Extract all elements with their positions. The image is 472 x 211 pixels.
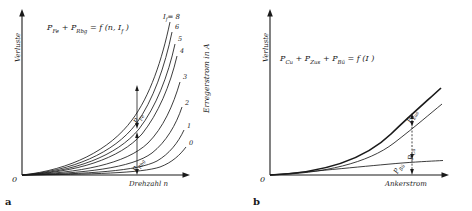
chart-panel-a: Verluste PFe + PRbg = f (n, If ) If= 8 6… bbox=[0, 0, 236, 211]
annotation-pcu-sub: Cu bbox=[411, 149, 416, 156]
curve-if-6 bbox=[22, 32, 172, 175]
curve-label-2: 2 bbox=[185, 100, 189, 107]
legend-title-erregerstrom: Erregerstrom in A bbox=[203, 44, 211, 113]
curve-label-3: 3 bbox=[183, 74, 187, 81]
formula-a-eq: = f (n, I bbox=[90, 23, 121, 32]
curve-label-5: 5 bbox=[178, 36, 182, 43]
panel-caption-b: b bbox=[253, 197, 260, 207]
x-axis-label-a: Drehzahl n bbox=[129, 181, 168, 188]
formula-b-plus1: + bbox=[296, 54, 303, 63]
formula-b-plus2: + bbox=[323, 54, 330, 63]
curve-if-4 bbox=[22, 56, 177, 175]
formula-a-eq-end: ) bbox=[123, 23, 129, 32]
origin-label-b: 0 bbox=[260, 176, 265, 184]
origin-label-a: 0 bbox=[12, 176, 17, 184]
formula-a-plus: + bbox=[62, 23, 69, 32]
formula-b-p2-sub: Zus bbox=[310, 59, 320, 65]
formula-b-p3-sub: Bü bbox=[338, 59, 346, 65]
formula-b: PCu + PZus + PBü = f (I ) bbox=[280, 55, 374, 65]
curve-label-1: 1 bbox=[187, 123, 191, 130]
y-axis-label-a: Verluste bbox=[15, 33, 22, 62]
chart-panel-b: Verluste PCu + PZus + PBü = f (I ) PZus … bbox=[236, 0, 472, 211]
curve-label-6: 6 bbox=[175, 24, 179, 31]
x-axis-label-b: Ankerstrom bbox=[385, 181, 427, 188]
series-label-eq: = 8 bbox=[168, 13, 181, 21]
curve-label-0: 0 bbox=[189, 140, 193, 147]
y-axis-label-b: Verluste bbox=[263, 33, 270, 62]
annotation-label-pcu: PCu bbox=[408, 149, 417, 160]
curve-if-5 bbox=[22, 44, 175, 175]
formula-a-p2-sub: Rbg bbox=[76, 28, 87, 34]
loss-characteristics-figure: Verluste PFe + PRbg = f (n, If ) If= 8 6… bbox=[0, 0, 472, 211]
panel-b-plot bbox=[236, 0, 472, 211]
formula-a-p1-sub: Fe bbox=[52, 28, 59, 34]
curve-label-4: 4 bbox=[180, 48, 184, 55]
curve-if-8 bbox=[22, 22, 170, 175]
annotation-pcu-p: P bbox=[407, 155, 415, 160]
curve-family-b bbox=[270, 88, 443, 175]
formula-b-p1-sub: Cu bbox=[285, 59, 293, 65]
curve-family-a bbox=[22, 22, 186, 175]
formula-b-eq: = f (I ) bbox=[348, 54, 375, 63]
formula-a: PFe + PRbg = f (n, If ) bbox=[47, 24, 129, 34]
series-label-if8: If= 8 bbox=[163, 14, 180, 23]
panel-caption-a: a bbox=[5, 197, 11, 207]
curve-bu bbox=[270, 161, 443, 176]
